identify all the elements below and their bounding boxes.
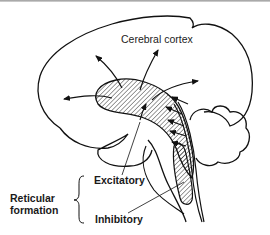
excitatory-leader-line xyxy=(122,122,140,175)
reticular-formation-diagram: Cerebral cortex Excitatory Inhibitory Re… xyxy=(0,0,270,235)
reticular-brace xyxy=(74,176,84,223)
reticular-label-line2: formation xyxy=(10,204,58,216)
temporal-lobe-outline xyxy=(60,128,152,166)
reticular-label-line1: Reticular xyxy=(10,192,55,204)
cerebral-cortex-label: Cerebral cortex xyxy=(121,33,193,45)
inhibitory-label: Inhibitory xyxy=(95,213,143,225)
excitatory-label: Excitatory xyxy=(94,174,145,186)
